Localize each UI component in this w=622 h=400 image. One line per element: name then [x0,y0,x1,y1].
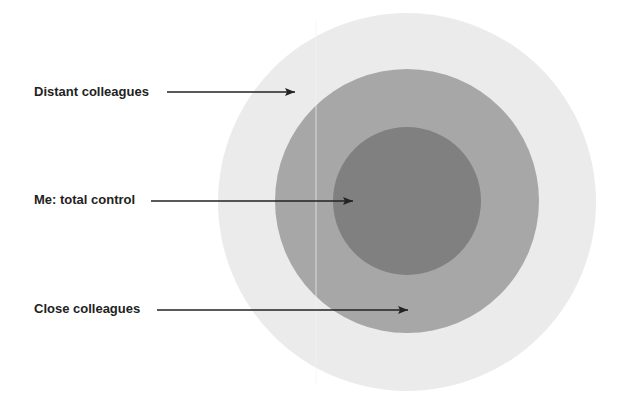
inner-circle-me [333,127,481,275]
label-me-total-control: Me: total control [34,192,135,208]
label-close-colleagues: Close colleagues [34,301,140,317]
label-distant-colleagues: Distant colleagues [34,84,149,100]
concentric-circles-diagram: Distant colleagues Me: total control Clo… [0,0,622,400]
